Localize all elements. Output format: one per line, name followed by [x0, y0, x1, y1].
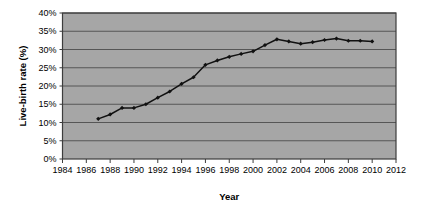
x-tick-label: 2008 [338, 165, 358, 175]
x-tick-label: 2000 [243, 165, 263, 175]
x-tick-label: 1986 [76, 165, 96, 175]
y-tick-label: 40% [38, 8, 56, 18]
y-axis-title: Live-birth rate (%) [17, 46, 28, 127]
y-tick-label: 35% [38, 26, 56, 36]
y-tick-label: 15% [38, 99, 56, 109]
y-tick-label: 30% [38, 45, 56, 55]
x-tick-label: 2006 [315, 165, 335, 175]
x-tick-label: 1996 [195, 165, 215, 175]
x-tick-label: 1984 [52, 165, 72, 175]
x-tick-label: 1988 [100, 165, 120, 175]
x-tick-label: 2004 [291, 165, 311, 175]
y-tick-label: 25% [38, 63, 56, 73]
x-tick-label: 2010 [362, 165, 382, 175]
y-tick-label: 0% [43, 154, 56, 164]
x-tick-label: 2002 [267, 165, 287, 175]
y-tick-label: 5% [43, 136, 56, 146]
x-tick-label: 1994 [172, 165, 192, 175]
x-tick-label: 1992 [148, 165, 168, 175]
x-tick-label: 2012 [386, 165, 406, 175]
x-tick-label: 1990 [124, 165, 144, 175]
y-tick-label: 20% [38, 81, 56, 91]
chart-container: 0%5%10%15%20%25%30%35%40%198419861988199… [0, 0, 423, 213]
x-axis-title: Year [219, 191, 239, 202]
line-chart: 0%5%10%15%20%25%30%35%40%198419861988199… [0, 0, 423, 213]
x-tick-label: 1998 [219, 165, 239, 175]
y-tick-label: 10% [38, 118, 56, 128]
